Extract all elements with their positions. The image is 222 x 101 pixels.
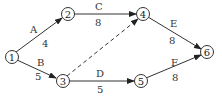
edge-label-duration-D: 5 [97, 84, 103, 95]
edge-label-duration-B: 5 [35, 71, 41, 82]
edge-label-duration-A: 4 [42, 38, 48, 49]
svg-text:1: 1 [9, 52, 15, 63]
edge-1-2 [16, 18, 62, 52]
edge-label-duration-F: 8 [172, 72, 178, 83]
node-5: 5 [135, 75, 148, 88]
node-6: 6 [201, 46, 214, 59]
edge-label-duration-C: 8 [95, 17, 101, 28]
edge-label-activity-C: C [95, 1, 103, 12]
edge-label-activity-F: F [171, 57, 178, 68]
node-3: 3 [57, 75, 70, 88]
svg-text:5: 5 [138, 76, 144, 87]
edge-label-activity-E: E [170, 18, 177, 29]
node-2: 2 [62, 8, 75, 21]
svg-text:6: 6 [204, 47, 210, 58]
edge-label-activity-D: D [96, 68, 104, 79]
edge-label-activity-B: B [37, 57, 44, 68]
network-diagram: A 4 B 5 C 8 D 5 E 8 F 8 1 2 3 4 5 6 [0, 0, 222, 101]
node-1: 1 [6, 51, 19, 64]
edge-label-activity-A: A [29, 24, 38, 35]
node-4: 4 [137, 8, 150, 21]
svg-text:3: 3 [60, 76, 66, 87]
svg-text:4: 4 [140, 9, 146, 20]
edge-label-duration-E: 8 [169, 35, 175, 46]
svg-text:2: 2 [65, 9, 71, 20]
